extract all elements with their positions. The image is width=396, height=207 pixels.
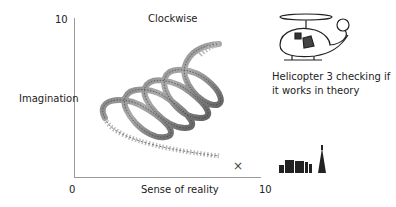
city-skyline-icon bbox=[0, 0, 396, 207]
